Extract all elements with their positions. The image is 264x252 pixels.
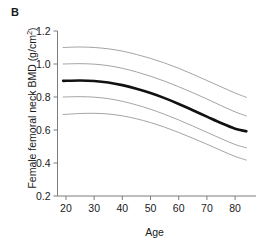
- y-axis-tick-label: 0.4: [36, 157, 51, 169]
- series-line-thin: [63, 64, 246, 116]
- chart-plot-area: 0.20.40.60.81.01.2 20304050607080: [0, 0, 264, 252]
- x-axis-tick-label: 20: [60, 202, 72, 214]
- y-axis-tick-label: 0.8: [36, 91, 51, 103]
- x-axis-tick-label: 30: [88, 202, 100, 214]
- x-axis: 20304050607080: [58, 196, 257, 214]
- data-series-group: [63, 47, 246, 160]
- y-axis: 0.20.40.60.81.01.2: [36, 25, 58, 202]
- y-axis-tick-label: 1.2: [36, 25, 51, 37]
- x-axis-tick-label: 80: [229, 202, 241, 214]
- series-line-thin: [63, 113, 246, 160]
- y-axis-tick-label: 0.2: [36, 190, 51, 202]
- x-axis-tick-label: 40: [116, 202, 128, 214]
- figure-panel-b: B Female femoral neck BMD (g/cm2) Age 0.…: [0, 0, 264, 252]
- x-axis-tick-label: 50: [145, 202, 157, 214]
- y-axis-tick-label: 0.6: [36, 124, 51, 136]
- x-axis-tick-label: 60: [173, 202, 185, 214]
- series-line-thin: [63, 47, 246, 97]
- x-axis-tick-label: 70: [201, 202, 213, 214]
- y-axis-tick-label: 1.0: [36, 58, 51, 70]
